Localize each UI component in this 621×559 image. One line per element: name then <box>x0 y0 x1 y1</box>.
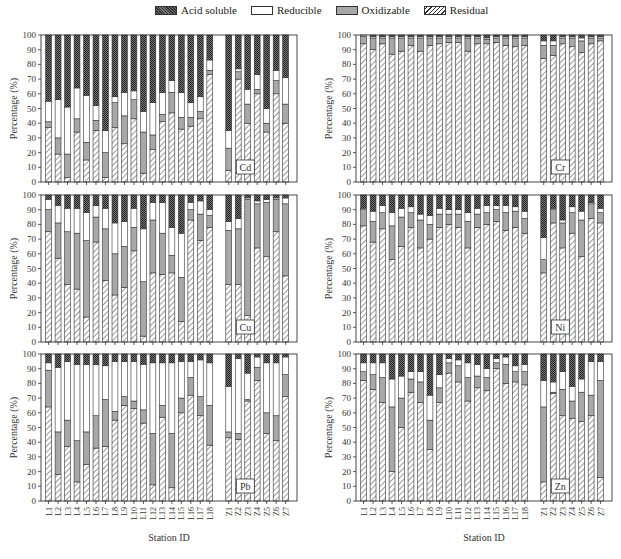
y-tick-label: 90 <box>342 205 352 215</box>
bar-L16 <box>188 354 194 501</box>
bar-L17 <box>512 195 518 342</box>
bar-Z7 <box>283 195 289 342</box>
bar-L14 <box>169 195 175 342</box>
x-tick-label: Z3 <box>244 507 253 516</box>
y-tick-label: 40 <box>27 118 37 128</box>
bar-L5 <box>399 195 405 342</box>
bar-Z4 <box>569 35 575 182</box>
y-tick-label: 30 <box>342 133 352 143</box>
x-tick-label: L5 <box>83 507 92 516</box>
bar-L10 <box>131 354 137 501</box>
x-tick-label: Z7 <box>282 507 291 516</box>
y-tick-label: 0 <box>32 337 37 347</box>
bar-L2 <box>55 195 61 342</box>
bar-L15 <box>178 35 184 182</box>
panel-ni: 0102030405060708090100Percentage (%)Ni <box>323 190 612 347</box>
bar-L15 <box>493 354 499 501</box>
x-tick-label: Z2 <box>234 507 243 516</box>
bar-Z4 <box>254 195 260 342</box>
y-axis-label: Percentage (%) <box>8 78 20 139</box>
y-tick-label: 80 <box>27 378 37 388</box>
bar-L12 <box>150 35 156 182</box>
x-tick-label: Z1 <box>540 507 549 516</box>
bar-Z4 <box>569 354 575 501</box>
bar-L16 <box>503 195 509 342</box>
bar-L11 <box>455 195 461 342</box>
bar-Z7 <box>598 195 604 342</box>
y-tick-label: 10 <box>342 322 352 332</box>
bar-Z4 <box>569 195 575 342</box>
bar-L7 <box>103 35 109 182</box>
y-tick-label: 20 <box>342 467 352 477</box>
bar-L2 <box>55 35 61 182</box>
bar-L4 <box>389 35 395 182</box>
bar-L8 <box>427 35 433 182</box>
bar-Z7 <box>283 354 289 501</box>
element-label: Pb <box>240 481 251 492</box>
bar-L5 <box>84 195 90 342</box>
bar-Z4 <box>254 354 260 501</box>
y-axis-label: Percentage (%) <box>8 238 20 299</box>
bar-L9 <box>436 354 442 501</box>
bar-L13 <box>159 35 165 182</box>
bar-Z1 <box>226 35 232 182</box>
x-tick-label: L14 <box>483 507 492 520</box>
bar-L14 <box>484 35 490 182</box>
x-tick-label: L4 <box>73 507 82 516</box>
bar-L16 <box>188 195 194 342</box>
bar-L7 <box>418 195 424 342</box>
bar-L6 <box>408 35 414 182</box>
bar-L5 <box>84 35 90 182</box>
y-axis-label: Percentage (%) <box>323 397 335 458</box>
x-tick-label: L10 <box>130 507 139 520</box>
y-tick-label: 30 <box>342 452 352 462</box>
bar-L11 <box>140 35 146 182</box>
bar-Z6 <box>273 35 279 182</box>
bar-L12 <box>465 354 471 501</box>
bar-L9 <box>436 195 442 342</box>
bar-L18 <box>522 195 528 342</box>
x-tick-label: L3 <box>379 507 388 516</box>
x-tick-label: L8 <box>111 507 120 516</box>
bar-L4 <box>74 195 80 342</box>
bar-L11 <box>455 354 461 501</box>
y-tick-label: 40 <box>27 437 37 447</box>
x-tick-label: L3 <box>64 507 73 516</box>
x-tick-label: Z1 <box>225 507 234 516</box>
bar-L12 <box>150 195 156 342</box>
bar-L14 <box>484 195 490 342</box>
bar-L2 <box>370 35 376 182</box>
bar-L4 <box>74 354 80 501</box>
y-tick-label: 40 <box>342 118 352 128</box>
y-tick-label: 60 <box>342 249 352 259</box>
bar-Z1 <box>541 195 547 342</box>
y-tick-label: 70 <box>342 234 352 244</box>
element-label: Cd <box>239 162 251 173</box>
bar-L16 <box>503 354 509 501</box>
bar-L1 <box>46 354 52 501</box>
bar-L6 <box>93 354 99 501</box>
bar-L10 <box>446 195 452 342</box>
y-tick-label: 100 <box>23 349 37 359</box>
y-tick-label: 70 <box>27 393 37 403</box>
x-tick-label: L4 <box>388 507 397 516</box>
bar-L9 <box>121 35 127 182</box>
bar-L13 <box>474 195 480 342</box>
x-tick-label: L11 <box>139 507 148 520</box>
bar-L3 <box>380 195 386 342</box>
x-tick-label: L18 <box>206 507 215 520</box>
y-tick-label: 10 <box>342 162 352 172</box>
y-tick-label: 10 <box>27 162 37 172</box>
x-tick-label: L1 <box>45 507 54 516</box>
y-tick-label: 40 <box>27 278 37 288</box>
x-tick-label: L6 <box>92 507 101 516</box>
y-tick-label: 50 <box>342 423 352 433</box>
y-tick-label: 100 <box>338 30 352 40</box>
bar-L16 <box>188 35 194 182</box>
x-tick-label: L2 <box>54 507 63 516</box>
element-label: Zn <box>555 481 566 492</box>
bar-L8 <box>427 195 433 342</box>
x-tick-label: L17 <box>511 507 520 520</box>
y-tick-label: 20 <box>27 467 37 477</box>
bar-L10 <box>446 35 452 182</box>
